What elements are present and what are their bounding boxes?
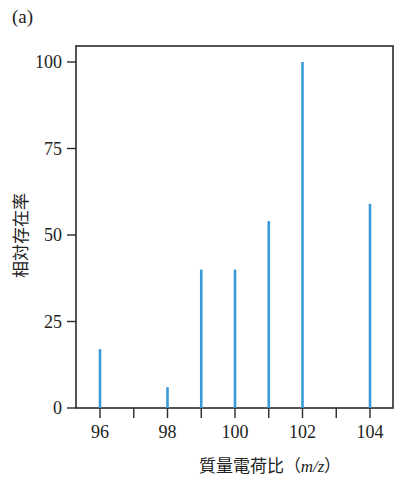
y-tick-label: 0 <box>53 398 62 418</box>
y-tick-label: 100 <box>35 52 62 72</box>
x-tick-label: 102 <box>289 422 316 442</box>
x-tick-label: 100 <box>222 422 249 442</box>
y-axis-title: 相対存在率 <box>11 193 31 278</box>
y-tick-label: 75 <box>44 139 62 159</box>
x-tick-label: 98 <box>159 422 177 442</box>
x-tick-label: 104 <box>357 422 384 442</box>
x-tick-label: 96 <box>91 422 109 442</box>
spectrum-bars <box>100 62 370 408</box>
x-axis-title: 質量電荷比（m/z） <box>199 456 342 476</box>
y-tick-label: 25 <box>44 312 62 332</box>
y-tick-label: 50 <box>44 225 62 245</box>
y-axis-ticks: 0255075100 <box>35 52 76 418</box>
mass-spectrum-chart: 0255075100 9698100102104 質量電荷比（m/z） 相対存在… <box>0 0 408 483</box>
x-axis-ticks: 9698100102104 <box>91 408 384 442</box>
